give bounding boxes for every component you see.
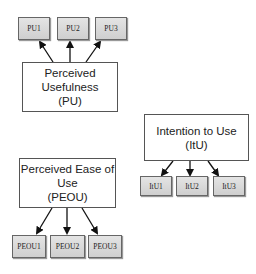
item-itu1: ItU1 — [140, 176, 172, 196]
construct-label-line1: Intention to Use — [156, 124, 237, 138]
construct-intention-to-use: Intention to Use (ItU) — [144, 114, 249, 161]
item-pu3: PU3 — [95, 17, 127, 40]
item-peou2: PEOU2 — [50, 235, 85, 258]
item-pu2: PU2 — [57, 17, 89, 40]
item-itu3: ItU3 — [213, 176, 245, 196]
arrow-peou-peou1 — [37, 208, 52, 233]
item-peou3: PEOU3 — [88, 235, 122, 258]
construct-label-line2: Use — [57, 176, 77, 190]
item-peou1: PEOU1 — [12, 235, 46, 258]
arrow-pu-pu3 — [86, 42, 100, 62]
arrow-pu-pu1 — [40, 42, 53, 62]
construct-label-line2: (ItU) — [185, 138, 207, 152]
construct-perceived-ease-of-use: Perceived Ease of Use (PEOU) — [19, 158, 116, 208]
construct-label-line1: Perceived Ease of — [21, 162, 114, 176]
item-pu1: PU1 — [18, 17, 50, 40]
arrow-itu-itu3 — [208, 161, 218, 175]
item-itu2: ItU2 — [176, 176, 208, 196]
construct-perceived-usefulness: Perceived Usefulness (PU) — [22, 62, 118, 112]
construct-label-line1: Perceived — [44, 66, 95, 80]
construct-label-line3: (PEOU) — [47, 190, 87, 204]
construct-label-line2: Usefulness — [42, 80, 99, 94]
construct-label-line3: (PU) — [58, 94, 82, 108]
arrow-itu-itu1 — [162, 161, 173, 175]
arrow-peou-peou3 — [82, 208, 97, 233]
